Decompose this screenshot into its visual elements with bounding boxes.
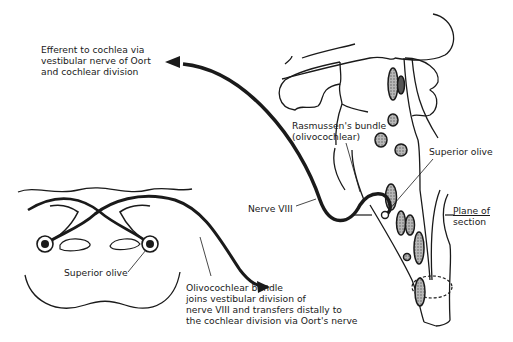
superior-olive-left-leader bbox=[128, 250, 146, 272]
efferent-label-line2: vestibular nerve of Oort bbox=[41, 55, 151, 66]
olivocochlear-efferent-pathway bbox=[183, 64, 390, 221]
nerve-viii-label: Nerve VIII bbox=[248, 203, 293, 214]
nerve-viii-leader bbox=[296, 199, 316, 206]
rasmussen-label-line2: (olivocochlear) bbox=[292, 131, 386, 142]
efferent-arrowhead bbox=[165, 56, 180, 68]
superior-olive-right-leader bbox=[388, 159, 433, 211]
cross-section-nucleus-left bbox=[60, 239, 90, 251]
rasmussen-label: Rasmussen's bundle (olivocochlear) bbox=[292, 120, 386, 142]
plane-of-section-line2: section bbox=[453, 216, 490, 227]
rasmussen-leader bbox=[346, 143, 360, 192]
plane-of-section-line1: Plane of bbox=[453, 205, 490, 216]
brainstem-sagittal-outline bbox=[279, 14, 453, 326]
superior-olive-origin bbox=[382, 212, 389, 219]
olivocochlear-bundle-line2: joins vestibular division of bbox=[186, 293, 358, 304]
efferent-label: Efferent to cochlea via vestibular nerve… bbox=[41, 44, 151, 77]
olivocochlear-bundle-line3: nerve VIII and transfers distally to bbox=[186, 304, 358, 315]
superior-olive-left-label: Superior olive bbox=[64, 267, 128, 278]
olivocochlear-bundle-line1: Olivocochlear bundle bbox=[186, 282, 358, 293]
efferent-label-line1: Efferent to cochlea via bbox=[41, 44, 151, 55]
cross-section-top-outline bbox=[18, 188, 192, 192]
cross-section-nucleus-right bbox=[110, 239, 140, 250]
rasmussen-label-line1: Rasmussen's bundle bbox=[292, 120, 386, 131]
superior-olive-right-label: Superior olive bbox=[429, 146, 493, 157]
efferent-label-line3: and cochlear division bbox=[41, 66, 151, 77]
olivocochlear-bundle-line4: the cochlear division via Oort's nerve bbox=[186, 315, 358, 326]
superior-olive-left-marker bbox=[37, 236, 53, 252]
plane-of-section-label: Plane of section bbox=[453, 205, 490, 227]
olivocochlear-bundle-leader bbox=[200, 237, 211, 276]
superior-olive-right-marker bbox=[142, 236, 158, 252]
olivocochlear-bundle-label: Olivocochlear bundle joins vestibular di… bbox=[186, 282, 358, 326]
sagittal-nuclei bbox=[375, 68, 425, 306]
